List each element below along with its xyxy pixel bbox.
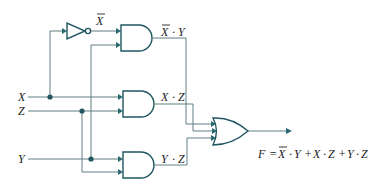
svg-text:Y: Y [347,147,355,161]
svg-text:X: X [312,147,321,161]
junction-dot-z [79,108,84,113]
svg-text:·: · [172,90,175,104]
wire-x [28,28,123,100]
input-label-z: Z [18,104,25,118]
svg-text:Z: Z [178,90,185,104]
and-gate-2 [123,91,154,117]
svg-text:Z: Z [328,147,335,161]
junction-dot-y [88,156,93,161]
svg-text:Y: Y [294,147,302,161]
svg-text:·: · [323,147,326,161]
svg-text:Y: Y [161,152,169,166]
not-output-label: X [95,14,105,28]
svg-text:X: X [277,147,286,161]
svg-text:+: + [304,147,312,161]
junction-dot-x [47,94,52,99]
svg-text:Y: Y [178,25,186,39]
svg-text:+: + [338,147,346,161]
svg-text:X: X [95,14,104,28]
and3-output-label: Y · Z [161,152,185,166]
not-gate [67,23,121,39]
input-label-y: Y [18,152,26,166]
wire-z [28,108,123,175]
or-gate [213,118,248,145]
wire-or-output [248,128,292,134]
output-formula: F = X · Y + X · Z + Y · Z [257,147,368,161]
svg-text:X: X [160,25,169,39]
svg-text:Z: Z [178,152,185,166]
and-gate-1 [121,25,152,51]
svg-text:·: · [172,25,175,39]
and2-output-label: X · Z [160,90,185,104]
and1-output-label: X · Y [160,25,186,39]
logic-circuit-diagram: X Z Y X X [0,0,391,186]
svg-text:F: F [257,147,266,161]
svg-text:·: · [356,147,359,161]
and-gate-3 [123,152,154,178]
input-label-x: X [17,90,26,104]
wire-and1-to-or [152,38,216,127]
svg-text:Z: Z [361,147,368,161]
wire-y [28,42,123,162]
svg-text:·: · [172,152,175,166]
svg-text:X: X [160,90,169,104]
svg-text:=: = [269,147,277,161]
svg-text:·: · [289,147,292,161]
